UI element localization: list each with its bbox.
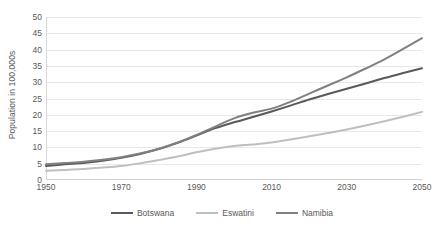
- y-axis-title-label: Population in 100,000s: [7, 51, 17, 140]
- y-axis-tick-label: 30: [22, 78, 42, 87]
- line-chart: Population in 100,000s 05101520253035404…: [0, 0, 444, 231]
- x-axis-tick-label: 1950: [37, 183, 56, 192]
- series-layer: [46, 17, 422, 180]
- series-line-eswatini: [46, 112, 422, 171]
- x-axis-tick-label: 2050: [413, 183, 432, 192]
- legend-item-botswana[interactable]: Botswana: [111, 209, 174, 218]
- legend-item-namibia[interactable]: Namibia: [276, 209, 333, 218]
- y-axis-tick-label: 5: [22, 159, 42, 168]
- y-axis-tick-label: 10: [22, 143, 42, 152]
- legend-item-label: Eswatini: [222, 209, 254, 218]
- y-axis-tick-label: 50: [22, 13, 42, 22]
- y-axis-tick-label: 45: [22, 29, 42, 38]
- y-axis-title: Population in 100,000s: [0, 0, 24, 190]
- legend-item-label: Botswana: [137, 209, 174, 218]
- x-axis-tick-labels: 195019701990201020302050: [46, 183, 422, 199]
- legend-item-label: Namibia: [302, 209, 333, 218]
- plot-area: [46, 17, 422, 180]
- legend-swatch-icon: [196, 212, 218, 215]
- x-axis-tick-label: 1970: [112, 183, 131, 192]
- y-axis-tick-label: 40: [22, 45, 42, 54]
- legend-swatch-icon: [276, 212, 298, 215]
- y-axis-tick-label: 25: [22, 94, 42, 103]
- y-axis-tick-labels: 05101520253035404550: [22, 0, 42, 190]
- x-axis-tick-label: 2030: [337, 183, 356, 192]
- x-axis-tick-label: 2010: [262, 183, 281, 192]
- series-line-botswana: [46, 68, 422, 166]
- y-axis-tick-label: 20: [22, 111, 42, 120]
- chart-legend: BotswanaEswatiniNamibia: [0, 203, 444, 223]
- x-axis-tick-label: 1990: [187, 183, 206, 192]
- legend-item-eswatini[interactable]: Eswatini: [196, 209, 254, 218]
- y-axis-tick-label: 35: [22, 62, 42, 71]
- y-axis-tick-label: 15: [22, 127, 42, 136]
- legend-swatch-icon: [111, 212, 133, 215]
